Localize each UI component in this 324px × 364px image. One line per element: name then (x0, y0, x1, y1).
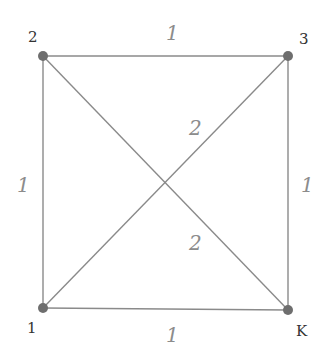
node-2 (38, 51, 48, 61)
edge-1-K (43, 308, 288, 310)
node-label-2: 2 (28, 28, 38, 46)
node-3 (283, 51, 293, 61)
weight-label-1-3: 2 (188, 116, 202, 140)
node-label-1: 1 (27, 319, 37, 337)
weight-label-2-3: 1 (166, 21, 179, 45)
node-1 (38, 303, 48, 313)
weight-label-1-K: 1 (166, 323, 179, 347)
weight-label-3-K: 1 (301, 173, 314, 197)
graph-diagram: 2 3 1 K 1 1 1 1 2 2 (0, 0, 324, 364)
weight-label-2-K: 2 (188, 231, 202, 255)
node-label-K: K (296, 322, 308, 340)
weight-label-2-1: 1 (17, 173, 30, 197)
node-K (283, 305, 293, 315)
node-label-3: 3 (299, 30, 309, 48)
